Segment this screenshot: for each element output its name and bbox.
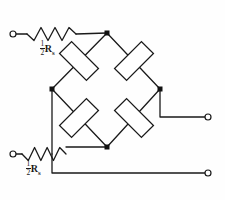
node-top <box>105 31 110 36</box>
label-series-resistor-top: 1 2 Rs <box>40 40 55 57</box>
wire-node-right-down-and-right <box>160 89 205 117</box>
resistor-symbol-letter: R <box>31 163 38 174</box>
circuit-diagram: 1 2 Rs 1 2 Rs <box>0 0 225 200</box>
terminal-top-left <box>10 31 16 37</box>
box-resistors-group <box>60 42 154 138</box>
resistor-series-top <box>27 28 76 41</box>
resistor-symbol-letter: R <box>45 43 52 54</box>
resistor-symbol-subscript: s <box>38 169 41 177</box>
label-series-resistor-bottom: 1 2 Rs <box>26 160 41 177</box>
wire-junction-down-and-right <box>52 154 205 173</box>
node-left <box>50 87 55 92</box>
terminal-bottom-left <box>10 151 16 157</box>
terminal-right-middle <box>205 114 211 120</box>
node-bottom <box>105 145 110 150</box>
wire-resistor-to-node-top <box>76 33 107 34</box>
terminal-right-bottom <box>205 170 211 176</box>
resistor-symbol-subscript: s <box>52 49 55 57</box>
node-right <box>158 87 163 92</box>
